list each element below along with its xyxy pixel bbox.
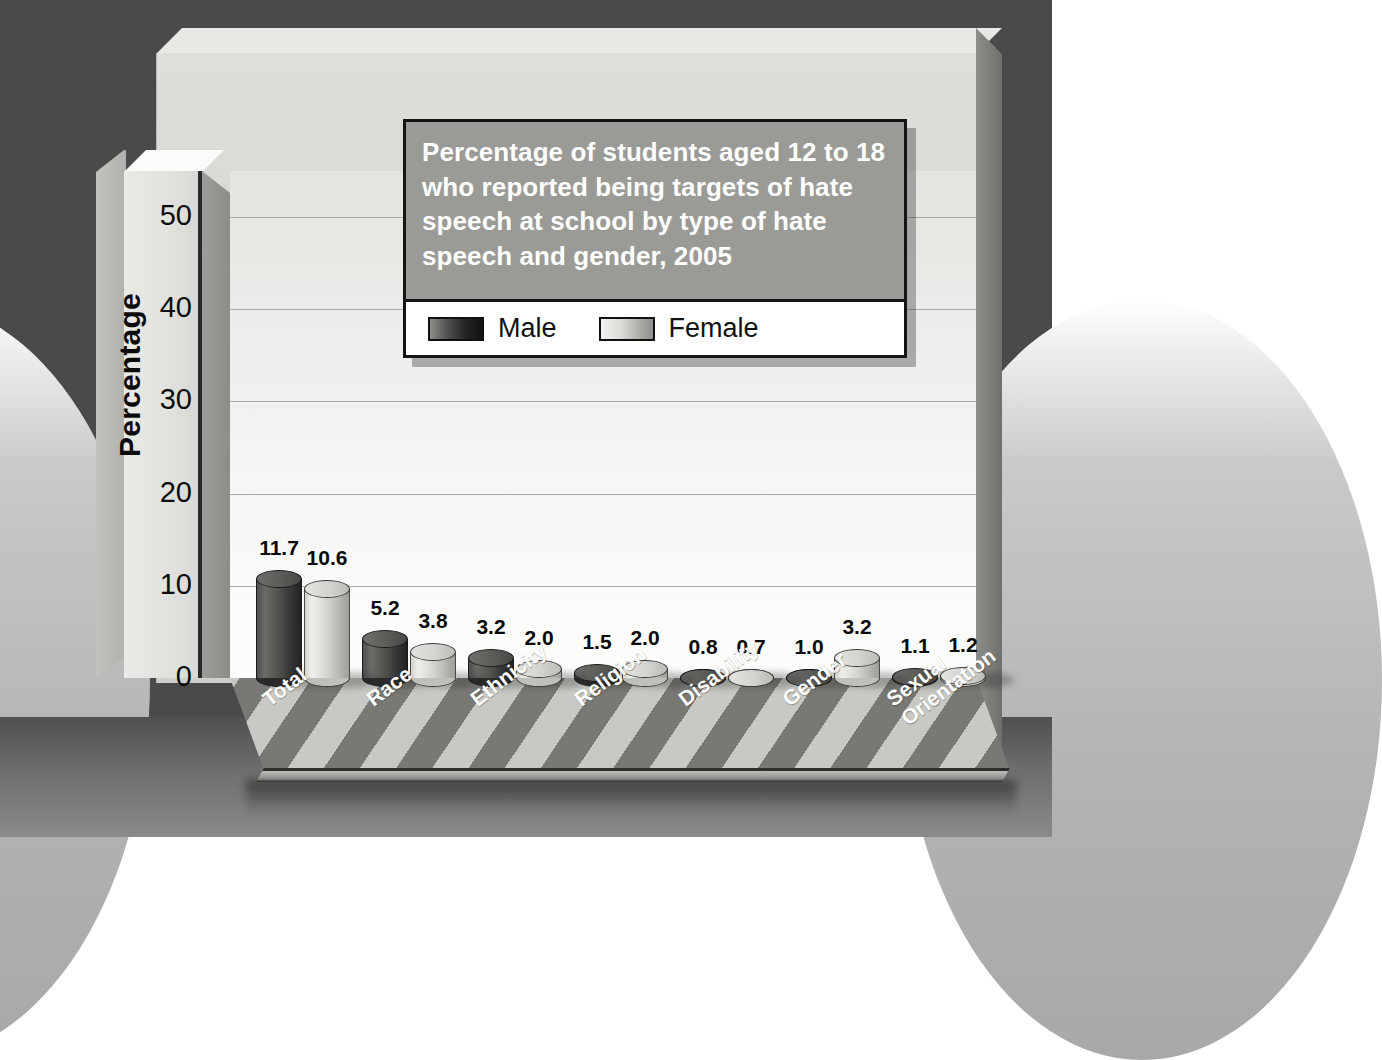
y-tick-10: 10	[160, 570, 192, 599]
back-wall-top-bevel	[156, 28, 1002, 54]
floor-drop-shadow	[246, 780, 1016, 814]
bar-total-male[interactable]	[256, 570, 302, 678]
legend-item-female[interactable]: Female	[599, 313, 759, 344]
gridline-30	[230, 401, 976, 402]
bar-total-female[interactable]	[304, 580, 350, 678]
bar-value-label: 10.6	[297, 546, 357, 570]
gridline-20	[230, 494, 976, 495]
y-tick-0: 0	[176, 662, 192, 691]
legend-swatch-male-icon	[428, 317, 484, 341]
cylinder-body	[304, 589, 350, 678]
chart-legend: Male Female	[406, 302, 904, 355]
title-legend-box: Percentage of students aged 12 to 18 who…	[403, 119, 907, 358]
cylinder-top	[410, 643, 456, 661]
chart-3d-block: 01020304050 Percentage 11.75.23.21.50.81…	[96, 28, 1002, 788]
legend-label-female: Female	[669, 313, 759, 344]
bar-value-label: 3.8	[403, 609, 463, 633]
legend-swatch-female-icon	[599, 317, 655, 341]
y-tick-50: 50	[160, 201, 192, 230]
legend-item-male[interactable]: Male	[428, 313, 557, 344]
y-tick-40: 40	[160, 293, 192, 322]
cylinder-top	[362, 630, 408, 648]
y-tick-30: 30	[160, 385, 192, 414]
y-axis-pillar-depth	[202, 171, 230, 678]
y-tick-20: 20	[160, 478, 192, 507]
bar-value-label: 3.2	[827, 615, 887, 639]
bar-value-label: 2.0	[615, 626, 675, 650]
y-axis-title: Percentage	[113, 225, 147, 525]
legend-label-male: Male	[498, 313, 557, 344]
bar-race-female[interactable]	[410, 643, 456, 678]
chart-title: Percentage of students aged 12 to 18 who…	[406, 122, 904, 302]
